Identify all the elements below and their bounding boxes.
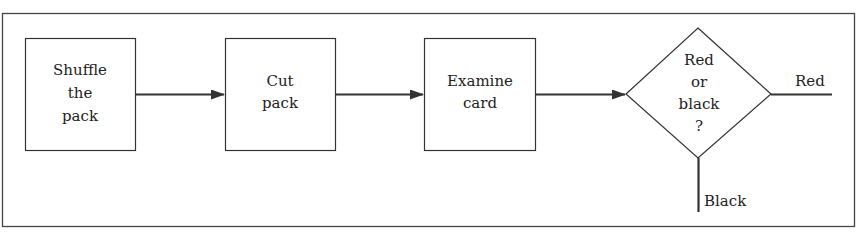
node-label-line: Cut: [266, 72, 293, 90]
node-cut-pack: Cut pack: [226, 39, 336, 151]
black-exit-label: Black: [704, 192, 747, 210]
node-label-line: Shuffle: [53, 61, 107, 79]
node-label-line: the: [68, 84, 93, 102]
node-examine-card: Examine card: [425, 39, 536, 151]
node-label-line: ?: [695, 117, 703, 135]
flowchart-canvas: Shuffle the pack Cut pack Examine card R…: [0, 0, 865, 235]
node-label-line: Examine: [447, 72, 513, 90]
decision-diamond: [626, 28, 771, 158]
node-label-line: black: [679, 95, 721, 113]
red-exit-label: Red: [795, 72, 825, 90]
node-label-line: or: [691, 73, 708, 91]
node-label-line: card: [463, 94, 498, 112]
node-label-line: pack: [262, 94, 299, 112]
node-label-line: Red: [684, 51, 714, 69]
node-label-line: pack: [62, 107, 99, 125]
node-shuffle-the-pack: Shuffle the pack: [26, 39, 136, 151]
node-decision-red-or-black: Red or black ?: [626, 28, 771, 158]
